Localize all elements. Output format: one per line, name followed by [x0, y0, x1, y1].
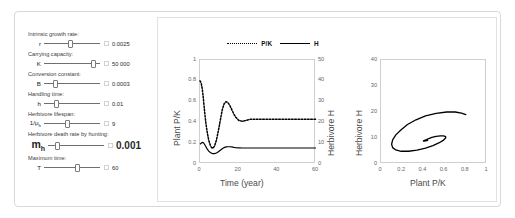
- phase-plot-area: [380, 59, 486, 163]
- timeseries-y2label: Herbivore H: [326, 110, 336, 156]
- parameter-lock-checkbox[interactable]: [104, 101, 109, 106]
- parameter-lock-checkbox[interactable]: [104, 81, 109, 86]
- parameter-slider[interactable]: [44, 163, 100, 172]
- parameter-controls-panel: Intrinsic growth rate:r0.0025Carrying ca…: [20, 17, 151, 202]
- series-pk-path: [200, 81, 316, 149]
- slider-track[interactable]: [44, 103, 100, 104]
- parameter-caption: Carrying capacity:: [28, 50, 145, 58]
- legend-label: P/K: [261, 40, 272, 47]
- tick-label: 0: [182, 160, 196, 166]
- parameter-row: Conversion constant:B0.0003: [28, 70, 145, 89]
- tick-label: 20: [233, 166, 243, 172]
- parameter-slider[interactable]: [44, 39, 100, 48]
- parameter-row: Maximum time:T60: [28, 154, 145, 173]
- chart-legend: P/KH: [198, 40, 348, 47]
- slider-knob[interactable]: [53, 80, 58, 88]
- tick-label: 0: [194, 166, 204, 172]
- parameter-symbol: 1/μh: [28, 119, 44, 128]
- tick-label: 60: [310, 166, 320, 172]
- parameter-row: Herbivore death rate by hunting:mh0.001: [28, 130, 145, 153]
- timeseries-xlabel: Time (year): [220, 178, 264, 188]
- parameter-caption: Conversion constant:: [28, 70, 145, 78]
- tick-label: 1: [182, 56, 196, 62]
- parameter-lock-checkbox[interactable]: [104, 61, 109, 66]
- tick-label: 10: [363, 134, 377, 140]
- phase-xlabel: Plant P/K: [410, 178, 446, 188]
- slider-knob[interactable]: [68, 40, 73, 48]
- tick-label: 30: [318, 97, 324, 103]
- parameter-slider[interactable]: [44, 99, 100, 108]
- parameter-symbol: B: [28, 80, 44, 87]
- parameter-symbol: r: [28, 40, 44, 47]
- tick-label: 1: [481, 166, 491, 172]
- parameter-caption: Handling time:: [28, 90, 145, 98]
- parameter-value[interactable]: 0.01: [112, 101, 123, 107]
- parameter-value[interactable]: 0.0025: [112, 41, 130, 47]
- timeseries-plot-area: [199, 59, 315, 163]
- parameter-lock-checkbox[interactable]: [104, 121, 109, 126]
- slider-knob[interactable]: [54, 100, 59, 108]
- parameter-symbol: h: [28, 100, 44, 107]
- legend-line-solid: [280, 43, 310, 44]
- tick-label: 10: [318, 139, 324, 145]
- parameter-row: Herbivore lifespan:1/μh9: [28, 110, 145, 129]
- parameter-caption: Intrinsic growth rate:: [28, 30, 145, 38]
- legend-item: P/K: [227, 40, 272, 47]
- parameter-slider[interactable]: [44, 79, 100, 88]
- parameter-row: Carrying capacity:K50 000: [28, 50, 145, 69]
- parameter-caption: Herbivore lifespan:: [28, 110, 145, 118]
- slider-track[interactable]: [44, 167, 100, 168]
- parameter-caption: Maximum time:: [28, 154, 145, 162]
- tick-label: 20: [363, 108, 377, 114]
- parameter-value[interactable]: 9: [112, 121, 115, 127]
- tick-label: 0.2: [396, 166, 406, 172]
- tick-label: 40: [318, 76, 324, 82]
- phase-svg: [381, 60, 487, 164]
- parameter-value[interactable]: 60: [112, 165, 118, 171]
- slider-track[interactable]: [44, 123, 100, 124]
- tick-label: 20: [318, 118, 324, 124]
- parameter-row: Handling time:h0.01: [28, 90, 145, 109]
- parameter-caption: Herbivore death rate by hunting:: [28, 130, 145, 138]
- tick-label: 0.8: [460, 166, 470, 172]
- app-frame: Intrinsic growth rate:r0.0025Carrying ca…: [14, 11, 501, 207]
- tick-label: 0.6: [182, 97, 196, 103]
- tick-label: 0.8: [182, 76, 196, 82]
- tick-label: 0.4: [417, 166, 427, 172]
- slider-knob[interactable]: [91, 60, 96, 68]
- tick-label: 50: [318, 56, 324, 62]
- parameter-symbol: mh: [28, 138, 48, 152]
- timeseries-ylabel: Plant P/K: [172, 110, 182, 146]
- tick-label: 0.2: [182, 139, 196, 145]
- parameter-slider[interactable]: [44, 59, 100, 68]
- tick-label: 0: [375, 166, 385, 172]
- plots-panel: P/KH Plant P/K Herbivore H Time (year) 0…: [157, 17, 497, 202]
- parameter-value[interactable]: 0.001: [116, 140, 141, 151]
- app-root: Intrinsic growth rate:r0.0025Carrying ca…: [0, 0, 515, 218]
- timeseries-svg: [200, 60, 316, 164]
- series-phase-path: [392, 112, 466, 151]
- tick-label: 30: [363, 82, 377, 88]
- parameter-symbol: T: [28, 164, 44, 171]
- parameter-lock-checkbox[interactable]: [104, 165, 109, 170]
- slider-knob[interactable]: [55, 142, 60, 150]
- parameter-slider[interactable]: [48, 141, 104, 150]
- tick-label: 40: [363, 56, 377, 62]
- slider-knob[interactable]: [65, 120, 70, 128]
- legend-item: H: [280, 40, 319, 47]
- parameter-lock-checkbox[interactable]: [108, 143, 113, 148]
- tick-label: 0: [363, 160, 377, 166]
- legend-line-dotted: [227, 43, 257, 44]
- parameter-slider[interactable]: [44, 119, 100, 128]
- parameter-lock-checkbox[interactable]: [104, 41, 109, 46]
- parameter-value[interactable]: 50 000: [112, 61, 130, 67]
- parameter-symbol: K: [28, 60, 44, 67]
- parameter-row: Intrinsic growth rate:r0.0025: [28, 30, 145, 49]
- tick-label: 0: [318, 160, 321, 166]
- series-h-path: [200, 142, 316, 153]
- slider-knob[interactable]: [75, 164, 80, 172]
- tick-label: 0.4: [182, 118, 196, 124]
- tick-label: 0.6: [439, 166, 449, 172]
- parameter-value[interactable]: 0.0003: [112, 81, 130, 87]
- legend-label: H: [314, 40, 319, 47]
